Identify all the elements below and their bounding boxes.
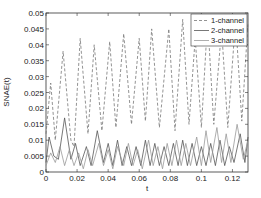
legend-label-3-channel: 3-channel bbox=[211, 36, 244, 45]
legend-label-2-channel: 2-channel bbox=[211, 26, 244, 35]
snae-line-chart: 00.020.040.060.080.10.12 00.0050.010.015… bbox=[0, 0, 261, 198]
y-tick-label: 0.025 bbox=[24, 89, 45, 98]
y-tick-label: 0 bbox=[40, 168, 45, 177]
y-tick-label: 0.005 bbox=[24, 152, 45, 161]
y-tick-label: 0.015 bbox=[24, 120, 45, 129]
x-tick-label: 0.04 bbox=[100, 174, 116, 183]
y-axis-label: SNAE(t) bbox=[2, 77, 11, 107]
legend: 1-channel 2-channel 3-channel bbox=[191, 14, 247, 46]
x-axis-label: t bbox=[146, 184, 149, 193]
y-tick-label: 0.04 bbox=[28, 41, 44, 50]
legend-label-1-channel: 1-channel bbox=[211, 16, 244, 25]
x-tick-label: 0.08 bbox=[163, 174, 179, 183]
y-tick-label: 0.03 bbox=[28, 73, 44, 82]
x-tick-label: 0 bbox=[44, 174, 49, 183]
x-tick-label: 0.02 bbox=[69, 174, 85, 183]
y-tick-label: 0.02 bbox=[28, 104, 44, 113]
y-tick-label: 0.035 bbox=[24, 57, 45, 66]
y-tick-label: 0.045 bbox=[24, 25, 45, 34]
y-tick-label: 0.05 bbox=[28, 9, 44, 18]
x-tick-label: 0.1 bbox=[196, 174, 208, 183]
x-tick-label: 0.06 bbox=[131, 174, 147, 183]
y-tick-label: 0.01 bbox=[28, 136, 44, 145]
x-tick-label: 0.12 bbox=[225, 174, 241, 183]
